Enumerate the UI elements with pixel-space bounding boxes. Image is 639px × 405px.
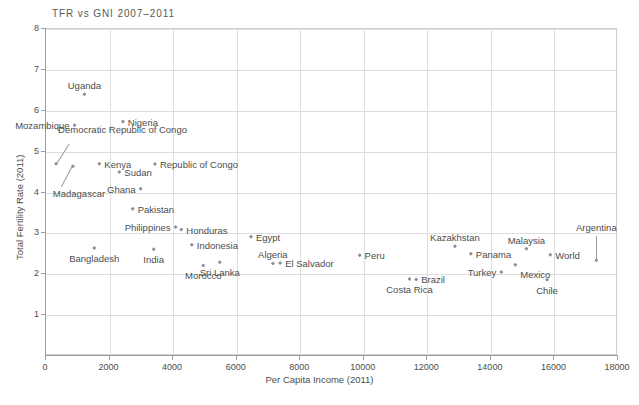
gridline-horizontal (46, 111, 616, 112)
gridline-horizontal (46, 29, 616, 30)
data-point-label: Democratic Republic of Congo (58, 124, 156, 135)
x-tick-label: 18000 (604, 362, 629, 372)
y-tick-label: 7 (17, 64, 39, 74)
x-tick-mark (45, 356, 46, 360)
data-point-label: Republic of Congo (160, 159, 238, 170)
data-point-label: El Salvador (285, 258, 334, 269)
chart-title: TFR vs GNI 2007–2011 (52, 8, 175, 19)
data-point-label: Turkey (468, 267, 497, 278)
data-point-label: Peru (365, 250, 385, 261)
y-tick-mark (41, 192, 45, 193)
data-point-label: Panama (476, 248, 511, 259)
y-axis-label: Total Fertility Rate (2011) (14, 155, 25, 260)
x-tick-label: 6000 (226, 362, 246, 372)
data-point-label: Mexico (520, 268, 550, 279)
x-tick-label: 14000 (477, 362, 502, 372)
x-tick-mark (299, 356, 300, 360)
x-tick-mark (490, 356, 491, 360)
gridline-vertical (364, 29, 365, 354)
y-tick-label: 6 (17, 105, 39, 115)
data-point-label: Malaysia (508, 235, 546, 246)
data-point-label: Bangladesh (69, 253, 119, 264)
data-point-label: Sri Lanka (200, 267, 240, 278)
data-point-label: Sudan (124, 166, 151, 177)
data-point-label: Madagascar (53, 188, 105, 199)
gridline-horizontal (46, 315, 616, 316)
x-tick-mark (172, 356, 173, 360)
y-tick-label: 8 (17, 23, 39, 33)
label-leader-line (596, 236, 597, 260)
gridline-vertical (491, 29, 492, 354)
data-point-label: Brazil (421, 274, 445, 285)
gridline-horizontal (46, 152, 616, 153)
x-tick-mark (236, 356, 237, 360)
data-point-label: Argentina (576, 222, 617, 233)
data-point-label: Chile (536, 285, 558, 296)
gridline-vertical (173, 29, 174, 354)
x-tick-label: 12000 (414, 362, 439, 372)
gridline-vertical (237, 29, 238, 354)
y-tick-mark (41, 232, 45, 233)
data-point-label: Algeria (258, 249, 288, 260)
data-point-label: Uganda (68, 80, 101, 91)
data-point-label: Honduras (186, 224, 227, 235)
x-tick-label: 0 (42, 362, 47, 372)
x-tick-label: 10000 (350, 362, 375, 372)
x-tick-mark (426, 356, 427, 360)
gridline-vertical (300, 29, 301, 354)
data-point-label: World (555, 249, 580, 260)
data-point-label: Kazakhstan (430, 232, 480, 243)
x-tick-mark (553, 356, 554, 360)
x-tick-mark (617, 356, 618, 360)
y-axis-line (45, 28, 46, 356)
y-tick-mark (41, 28, 45, 29)
x-tick-mark (363, 356, 364, 360)
scatter-chart: TFR vs GNI 2007–2011 12345678 0200040006… (0, 0, 639, 405)
gridline-vertical (427, 29, 428, 354)
data-point-label: Philippines (125, 222, 171, 233)
y-tick-mark (41, 273, 45, 274)
y-tick-label: 1 (17, 309, 39, 319)
data-point-label: India (143, 254, 164, 265)
x-tick-label: 16000 (541, 362, 566, 372)
data-point-label: Egypt (256, 231, 280, 242)
data-point-label: Ghana (107, 183, 136, 194)
x-tick-label: 8000 (289, 362, 309, 372)
x-tick-label: 4000 (162, 362, 182, 372)
y-tick-mark (41, 151, 45, 152)
gridline-vertical (554, 29, 555, 354)
y-tick-mark (41, 69, 45, 70)
x-axis-line (45, 355, 618, 356)
x-axis-label: Per Capita Income (2011) (0, 374, 639, 385)
gridline-horizontal (46, 70, 616, 71)
x-tick-mark (109, 356, 110, 360)
x-tick-label: 2000 (99, 362, 119, 372)
y-tick-mark (41, 110, 45, 111)
data-point-label: Costa Rica (386, 284, 432, 295)
data-point-label: Indonesia (197, 239, 238, 250)
data-point-label: Pakistan (138, 203, 174, 214)
y-tick-mark (41, 314, 45, 315)
y-tick-label: 2 (17, 268, 39, 278)
